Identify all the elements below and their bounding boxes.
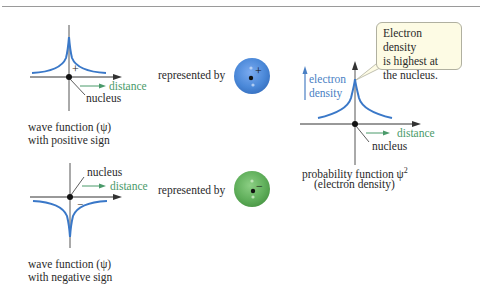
distance-arrow-icon: [99, 184, 106, 189]
density-label: density: [309, 87, 342, 100]
nucleus-label: nucleus: [87, 166, 122, 179]
represented-by-label: represented by: [158, 184, 225, 197]
electron-label: electron: [309, 73, 346, 86]
x-axis-arrow-icon: [113, 194, 122, 200]
density-arrow-icon: [303, 66, 308, 74]
positive-caption-line1: wave function (ψ): [28, 121, 111, 134]
nucleus-label: nucleus: [86, 92, 121, 105]
callout-box: Electron density is highest at the nucle…: [376, 22, 462, 70]
nucleus-dot-icon: [249, 76, 253, 80]
nucleus-dot-icon: [352, 121, 358, 127]
orbital-positive-sign: +: [255, 65, 262, 78]
negative-sign-label: −: [77, 198, 83, 211]
positive-caption-line2: with positive sign: [28, 134, 110, 147]
nucleus-dot-icon: [67, 194, 73, 200]
probability-caption-line2: (electron density): [314, 178, 395, 191]
positive-sign-label: +: [72, 63, 79, 76]
callout-line3: the nucleus.: [383, 68, 455, 82]
negative-caption-line2: with negative sign: [28, 271, 112, 284]
orbital-negative-sign: −: [256, 180, 263, 193]
distance-arrow-icon: [383, 131, 390, 136]
callout-line1: Electron density: [383, 26, 455, 54]
nucleus-label: nucleus: [372, 140, 407, 153]
negative-orbital: [234, 171, 270, 207]
distance-label: distance: [397, 127, 435, 140]
distance-arrow-icon: [99, 84, 106, 89]
negative-caption-line1: wave function (ψ): [28, 258, 111, 271]
y-axis-arrow-icon: [352, 61, 358, 70]
distance-label: distance: [110, 180, 148, 193]
represented-by-label: represented by: [158, 69, 225, 82]
callout-line2: is highest at: [383, 54, 455, 68]
positive-orbital: [234, 58, 270, 94]
nucleus-dot-icon: [251, 189, 255, 193]
